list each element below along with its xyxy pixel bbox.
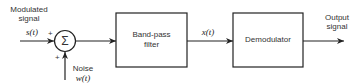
- modulated-label-line2: signal: [4, 14, 54, 23]
- output-label-line2: signal: [316, 22, 358, 31]
- bandpass-line2: filter: [144, 40, 159, 50]
- output-label-line1: Output: [316, 13, 358, 22]
- modulated-label-line1: Modulated: [4, 5, 54, 14]
- bandpass-line1: Band-pass: [132, 30, 170, 40]
- modulated-signal-label: Modulated signal: [4, 5, 54, 23]
- output-signal-label: Output signal: [316, 13, 358, 31]
- plus-sign-top: +: [48, 29, 53, 38]
- signal-symbol: s(t): [20, 28, 44, 37]
- noise-label: Noise: [70, 64, 96, 73]
- plus-sign-bottom: +: [55, 53, 60, 62]
- noise-symbol: w(t): [70, 74, 96, 83]
- bandpass-filter-label: Band-pass filter: [116, 13, 187, 67]
- sigma-symbol: Σ: [58, 34, 72, 48]
- demodulator-label: Demodulator: [233, 13, 303, 67]
- intermediate-symbol: x(t): [196, 28, 220, 37]
